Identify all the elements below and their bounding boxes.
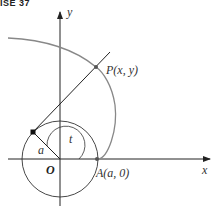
tangent-point [31, 130, 36, 135]
point-p-label: P(x, y) [105, 63, 138, 77]
radius-label: a [38, 143, 44, 157]
origin-label: O [46, 163, 55, 177]
angle-label: t [69, 132, 73, 146]
point-p [94, 65, 98, 69]
point-a [95, 157, 99, 161]
y-axis-label: y [66, 5, 73, 19]
tangent-line [33, 52, 110, 132]
involute-diagram: y x P(x, y) A(a, 0) O a t [0, 0, 217, 214]
point-a-label: A(a, 0) [95, 166, 129, 180]
x-axis-label: x [201, 163, 208, 177]
angle-arc [47, 126, 85, 159]
involute-curve [8, 38, 116, 159]
